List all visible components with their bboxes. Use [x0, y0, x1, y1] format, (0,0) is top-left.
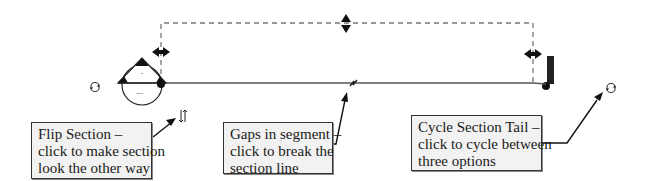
cycle-icon[interactable] — [89, 79, 101, 91]
callout-line: three options — [418, 153, 537, 170]
section-tail-right[interactable] — [533, 56, 554, 90]
callout-line: look the other way — [38, 160, 147, 177]
section-extent-dashed-outline — [161, 23, 533, 83]
flip-section-callout: Flip Section – click to make section loo… — [31, 122, 152, 179]
callout-line: section line — [230, 160, 328, 177]
callout-line: Gaps in segment – — [230, 126, 328, 143]
svg-text:---: --- — [136, 89, 144, 96]
flip-arrows-icon[interactable] — [178, 108, 188, 124]
cycle-icon[interactable] — [605, 80, 617, 92]
callout-line: Cycle Section Tail – — [418, 119, 537, 136]
callout-line: click to break the — [230, 143, 328, 160]
section-head-left[interactable]: - --- — [118, 58, 166, 105]
section-line-diagram: - --- — [0, 0, 647, 181]
flip-callout-leader — [153, 118, 176, 137]
callout-line: Flip Section – — [38, 126, 147, 143]
cycle-section-tail-callout: Cycle Section Tail – click to cycle betw… — [411, 115, 542, 171]
gaps-in-segment-callout: Gaps in segment – click to break the sec… — [223, 122, 333, 174]
callout-line: click to make section — [38, 143, 147, 160]
callout-line: click to cycle between — [418, 136, 537, 153]
